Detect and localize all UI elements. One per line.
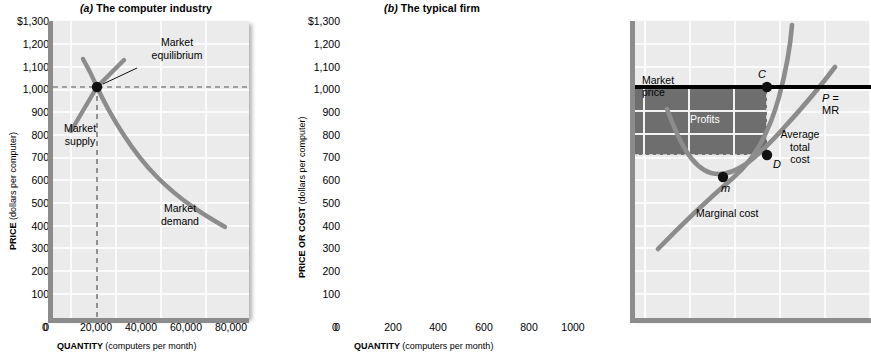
panel-b-xtick-200: 200 <box>368 322 418 333</box>
market-equilibrium-point <box>92 82 102 92</box>
annotation-market-equilibrium: Market equilibrium <box>135 36 219 61</box>
annotation-market-demand: Market demand <box>152 202 208 227</box>
panel-a-curves <box>53 21 249 318</box>
panel-a-ytick-600: 600 <box>3 175 49 186</box>
panel-a-x-axis-line <box>48 318 249 323</box>
panel-b-xtick-0: 0 <box>310 322 360 333</box>
panel-a-title-text: The computer industry <box>93 2 212 14</box>
annotation-market-supply: Market supply <box>55 122 105 147</box>
panel-b-ytick-1200: 1,200 <box>294 39 340 50</box>
panel-b-title-text: The typical firm <box>398 2 480 14</box>
panel-a-title: (a) The computer industry <box>0 2 292 14</box>
annotation-marginal-cost: Marginal cost <box>696 207 786 220</box>
panel-a-ytick-200: 200 <box>3 266 49 277</box>
panel-a-ytick-1100: 1,100 <box>3 62 49 73</box>
panel-a-ytick-500: 500 <box>3 198 49 209</box>
panel-a-ytick-900: 900 <box>3 107 49 118</box>
panel-a-xtick-20000: 20,000 <box>71 322 121 333</box>
panel-b-ytick-1000: 1,000 <box>294 84 340 95</box>
panel-b-ytick-600: 600 <box>294 175 340 186</box>
panel-a-xtick-60000: 60,000 <box>161 322 211 333</box>
panel-a-y-axis-title: PRICE (dollars per computer) <box>8 132 18 250</box>
panel-a-xtick-0: 0 <box>20 322 70 333</box>
annotation-market-price: Market price <box>642 74 674 98</box>
panel-a-ytick-1200: 1,200 <box>3 39 49 50</box>
panel-b-xtick-1000: 1000 <box>548 322 598 333</box>
panel-b-title: (b) The typical firm <box>292 2 572 14</box>
panel-b-ytick-100: 100 <box>294 289 340 300</box>
point-m-marker <box>718 172 728 182</box>
panel-b-xtick-800: 800 <box>504 322 554 333</box>
panel-b-ytick-200: 200 <box>294 266 340 277</box>
panel-a-ytick-400: 400 <box>3 221 49 232</box>
panel-a-xtick-40000: 40,000 <box>116 322 166 333</box>
panel-a-xtick-80000: 80,000 <box>206 322 256 333</box>
panel-a-ytick-800: 800 <box>3 130 49 141</box>
panel-b-ytick-400: 400 <box>294 221 340 232</box>
annotation-p-equals-mr: P = MR <box>822 92 839 116</box>
label-point-d: D <box>773 158 781 170</box>
panel-a-ytick-700: 700 <box>3 152 49 163</box>
panel-a-ytick-1000: 1,000 <box>3 84 49 95</box>
point-c-marker <box>762 82 772 92</box>
panel-a-plot-area <box>53 21 249 318</box>
panel-b-ytick-1100: 1,100 <box>294 62 340 73</box>
panel-a-ytick-1300: $1,300 <box>3 16 49 27</box>
panel-b-ytick-800: 800 <box>294 130 340 141</box>
panel-typical-firm: (b) The typical firm PRICE OR COST (doll… <box>292 0 585 361</box>
panel-a-x-axis-title: QUANTITY (computers per month) <box>57 341 196 351</box>
label-point-m: m <box>721 182 730 194</box>
panel-b-ytick-300: 300 <box>294 243 340 254</box>
point-d-marker <box>762 150 772 160</box>
panel-b-title-prefix: (b) <box>384 2 398 14</box>
label-point-c: C <box>758 68 766 80</box>
panel-computer-industry: (a) The computer industry PRICE (dollars… <box>0 0 292 361</box>
panel-b-curves <box>635 21 871 318</box>
panel-b-x-axis-line <box>630 318 871 323</box>
panel-a-ytick-300: 300 <box>3 243 49 254</box>
panel-b-ytick-700: 700 <box>294 152 340 163</box>
annotation-profits: Profits <box>690 113 720 125</box>
panel-a-ytick-100: 100 <box>3 289 49 300</box>
panel-a-title-prefix: (a) <box>80 2 93 14</box>
panel-b-ytick-1300: $1,300 <box>294 16 340 27</box>
panel-b-xtick-600: 600 <box>459 322 509 333</box>
panel-b-xtick-400: 400 <box>413 322 463 333</box>
panel-b-ytick-900: 900 <box>294 107 340 118</box>
panel-b-plot-area <box>635 21 871 318</box>
panel-b-ytick-500: 500 <box>294 198 340 209</box>
panel-b-x-axis-title: QUANTITY (computers per month) <box>354 341 493 351</box>
